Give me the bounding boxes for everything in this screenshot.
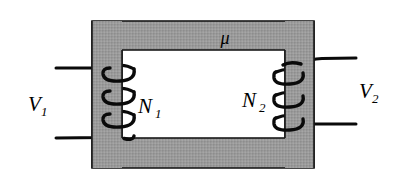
permeability-label: μ	[219, 28, 229, 48]
transformer-figure: μ V 1 N 1 N 2 V 2	[0, 0, 406, 191]
primary-voltage-label: V 1	[28, 92, 48, 119]
primary-turns-base: N	[137, 94, 153, 118]
secondary-turns-subscript: 2	[259, 100, 266, 115]
primary-voltage-subscript: 1	[41, 104, 48, 119]
secondary-voltage-subscript: 2	[372, 91, 379, 106]
primary-limb-occluder	[92, 21, 122, 168]
primary-turns-subscript: 1	[155, 106, 162, 121]
transformer-diagram-canvas: μ V 1 N 1 N 2 V 2	[0, 0, 406, 191]
secondary-limb-occluder	[285, 21, 314, 168]
secondary-turns-base: N	[241, 88, 257, 112]
secondary-voltage-label: V 2	[359, 79, 379, 106]
